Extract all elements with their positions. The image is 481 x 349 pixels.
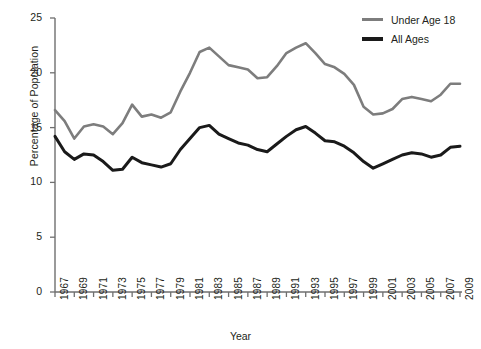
- legend-swatch-icon-under-age-18: [362, 18, 383, 21]
- legend-swatch-icon-all-ages: [362, 37, 383, 41]
- chart-legend: Under Age 18 All Ages: [362, 12, 455, 50]
- y-axis-tick-label: 5: [12, 230, 42, 242]
- legend-item-all-ages: All Ages: [362, 31, 455, 46]
- x-axis-tick-label: 1969: [78, 277, 89, 300]
- x-axis-tick-label: 1981: [194, 277, 205, 300]
- x-axis-tick-label: 2009: [464, 277, 475, 300]
- x-axis-tick-label: 1983: [213, 277, 224, 300]
- x-axis-tick-label: 1991: [290, 277, 301, 300]
- x-axis-title: Year: [0, 330, 481, 342]
- x-axis-tick-label: 2003: [406, 277, 417, 300]
- x-axis-tick-label: 2001: [387, 277, 398, 300]
- x-axis-tick-label: 1977: [155, 277, 166, 300]
- series-line-under-age-18: [55, 43, 460, 138]
- x-axis-tick-label: 1975: [136, 277, 147, 300]
- x-axis-tick-label: 1997: [348, 277, 359, 300]
- legend-item-under-age-18: Under Age 18: [362, 12, 455, 27]
- x-axis-tick-label: 1989: [271, 277, 282, 300]
- x-axis-tick-label: 1967: [59, 277, 70, 300]
- y-axis-ticks: [50, 18, 55, 292]
- x-axis-tick-label: 1985: [233, 277, 244, 300]
- x-axis-tick-label: 1987: [252, 277, 263, 300]
- x-axis-tick-label: 1979: [175, 277, 186, 300]
- y-axis-tick-label: 0: [12, 285, 42, 297]
- x-axis-tick-label: 1971: [98, 277, 109, 300]
- y-axis-title: Percentage of Population: [28, 16, 40, 196]
- chart-container: 0510152025 19671969197119731975197719791…: [0, 0, 481, 349]
- x-axis-tick-label: 2005: [425, 277, 436, 300]
- legend-label-under-age-18: Under Age 18: [391, 14, 455, 26]
- legend-label-all-ages: All Ages: [391, 33, 429, 45]
- x-axis-tick-label: 1993: [310, 277, 321, 300]
- x-axis-tick-label: 2007: [445, 277, 456, 300]
- x-axis-tick-label: 1995: [329, 277, 340, 300]
- x-axis-tick-label: 1973: [117, 277, 128, 300]
- x-axis-tick-label: 1999: [368, 277, 379, 300]
